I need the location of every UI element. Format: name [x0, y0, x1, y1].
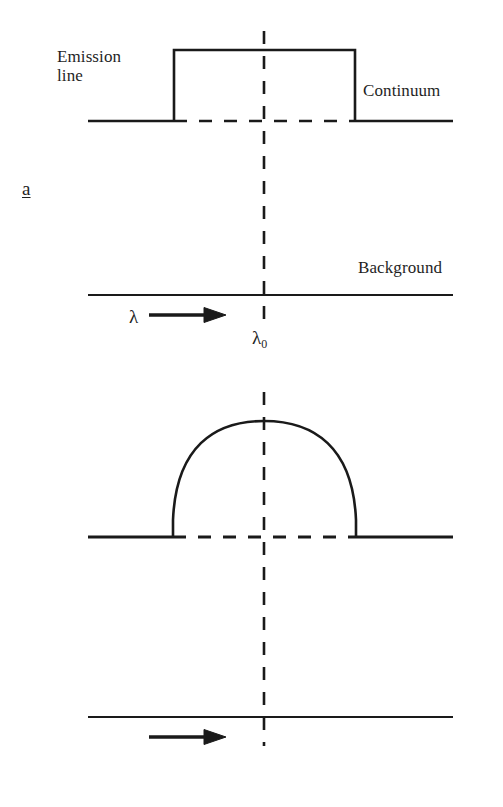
lambda-zero-base-a: λ: [252, 327, 261, 348]
emission-line-label-a: Emission line: [57, 47, 121, 86]
background-label-a: Background: [358, 258, 442, 277]
continuum-label-a: Continuum: [363, 81, 440, 100]
wavelength-arrow-a: [149, 308, 226, 323]
panel-b-graphic: [0, 390, 503, 807]
wavelength-arrow-b: [149, 730, 226, 745]
panel-letter-a: a: [22, 178, 31, 200]
lambda-zero-label-a: λ0: [252, 327, 267, 352]
lambda-symbol-a: λ: [129, 306, 138, 328]
panel-b: Emission line Continuum Background b λ λ…: [0, 390, 503, 807]
panel-a: Emission line Continuum Background a λ λ…: [0, 0, 503, 400]
figure-root: Emission line Continuum Background a λ λ…: [0, 0, 503, 807]
lambda-zero-subscript-a: 0: [261, 337, 267, 351]
